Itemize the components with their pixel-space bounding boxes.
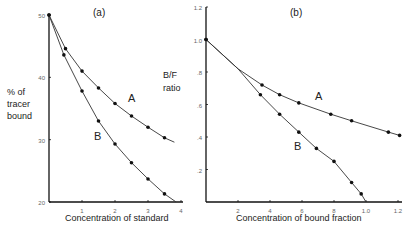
b-xtick-label: 6 — [292, 206, 312, 217]
a-xtick-label: 4 — [171, 206, 191, 217]
b-xtick-label: 4 — [260, 206, 280, 217]
a-xtick-label: 2 — [105, 206, 125, 217]
data-point — [163, 136, 167, 140]
data-point — [332, 160, 336, 164]
b-xtick-label: 8 — [324, 206, 344, 217]
data-point — [62, 53, 66, 57]
data-point — [359, 192, 363, 196]
data-point — [315, 147, 319, 151]
b-ylabel-line1: B/F — [163, 70, 177, 81]
data-point — [278, 112, 282, 116]
b-ytick-label: 1.0 — [182, 36, 202, 47]
a-curve-label-A: A — [128, 93, 135, 104]
data-point — [97, 119, 101, 123]
data-point — [350, 181, 354, 185]
figure — [0, 0, 411, 233]
a-ytick-label: 30 — [25, 136, 45, 147]
data-point — [97, 86, 101, 90]
panel-b-title: (b) — [290, 7, 302, 18]
a-xtick-label: 3 — [138, 206, 158, 217]
b-xtick-label: 1.2 — [388, 206, 408, 217]
data-point — [329, 112, 333, 116]
panel-b-chart — [204, 7, 402, 202]
data-point — [278, 93, 282, 97]
data-point — [398, 134, 402, 138]
data-point — [260, 83, 264, 87]
data-point — [297, 130, 301, 134]
b-ylabel-line2: ratio — [163, 83, 181, 94]
b-curve-label-B: B — [294, 141, 301, 152]
data-point — [204, 38, 208, 42]
series-B-line — [206, 40, 366, 203]
a-ylabel-line1: % of — [7, 87, 25, 98]
a-series — [47, 13, 176, 202]
b-ytick-label: .2 — [182, 166, 202, 177]
series-B-line — [49, 15, 176, 202]
data-point — [113, 102, 117, 106]
b-xtick-label: 2 — [228, 206, 248, 217]
a-ylabel-line3: bound — [7, 111, 32, 122]
data-point — [387, 130, 391, 134]
data-point — [130, 114, 134, 118]
b-ytick-label: .4 — [182, 133, 202, 144]
b-ytick-label: .6 — [182, 101, 202, 112]
data-point — [350, 119, 354, 123]
data-point — [130, 161, 134, 165]
a-xtick-label: 1 — [72, 206, 92, 217]
a-ytick-label: 20 — [25, 198, 45, 209]
data-point — [163, 192, 167, 196]
b-curve-label-A: A — [315, 91, 322, 102]
data-point — [80, 69, 84, 73]
a-curve-label-B: B — [94, 131, 101, 142]
data-point — [113, 142, 117, 146]
a-ytick-label: 50 — [25, 11, 45, 22]
data-point — [64, 47, 68, 51]
data-point — [297, 101, 301, 105]
a-ytick-label: 40 — [25, 73, 45, 84]
data-point — [146, 125, 150, 129]
a-ylabel-line2: tracer — [7, 99, 30, 110]
panel-a-title: (a) — [93, 7, 105, 18]
b-series — [204, 38, 401, 202]
panel-a-chart — [47, 13, 183, 202]
series-A-line — [49, 15, 174, 142]
series-A-line — [206, 40, 400, 136]
data-point — [146, 177, 150, 181]
b-ytick-label: 1.2 — [182, 3, 202, 14]
b-ytick-label: .8 — [182, 68, 202, 79]
data-point — [259, 93, 263, 97]
b-xtick-label: 1.0 — [356, 206, 376, 217]
data-point — [47, 13, 51, 17]
data-point — [80, 89, 84, 93]
